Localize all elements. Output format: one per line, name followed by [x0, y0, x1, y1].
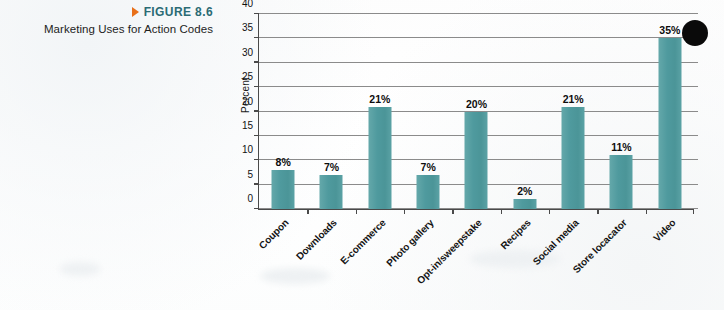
- x-tick-mark: [597, 209, 598, 214]
- bar-value-label: 8%: [276, 156, 291, 168]
- triangle-right-icon: [132, 7, 139, 17]
- x-tick-mark: [501, 209, 502, 214]
- bar-group[interactable]: 21%Social media: [549, 14, 597, 209]
- bar-group[interactable]: 7%Photo gallery: [404, 14, 452, 209]
- bar-group[interactable]: 8%Coupon: [259, 14, 307, 209]
- bar[interactable]: [320, 175, 343, 209]
- bar-value-label: 35%: [659, 24, 680, 36]
- figure-caption: FIGURE 8.6 Marketing Uses for Action Cod…: [8, 4, 213, 35]
- y-tick-label: 15: [242, 119, 253, 130]
- bar[interactable]: [513, 199, 536, 209]
- x-tick-mark: [452, 209, 453, 214]
- x-axis-category-label: Social media: [531, 217, 581, 267]
- bar-group[interactable]: 2%Recipes: [501, 14, 549, 209]
- bar[interactable]: [658, 38, 681, 209]
- bar-value-label: 11%: [611, 141, 631, 153]
- bar-group[interactable]: 21%E-commerce: [356, 14, 404, 209]
- x-axis-category-label: Recipes: [498, 217, 532, 251]
- bar-value-label: 21%: [369, 93, 390, 105]
- bar-group[interactable]: 7%Downloads: [307, 14, 355, 209]
- x-tick-mark: [693, 209, 694, 214]
- y-tick-label: 40: [242, 0, 253, 9]
- x-axis-category-label: Downloads: [294, 217, 339, 262]
- figure-number: FIGURE 8.6: [144, 5, 213, 19]
- x-axis-category-label: Photo gallery: [384, 217, 436, 269]
- plot-area: 0510152025303540 8%Coupon7%Downloads21%E…: [258, 14, 694, 210]
- x-tick-mark: [404, 209, 405, 214]
- bar-value-label: 7%: [421, 161, 436, 173]
- y-tick-label: 5: [247, 168, 253, 179]
- bar[interactable]: [417, 175, 440, 209]
- y-tick-label: 0: [247, 193, 253, 204]
- y-tick-label: 10: [242, 144, 253, 155]
- x-tick-mark: [356, 209, 357, 214]
- bar[interactable]: [610, 155, 633, 209]
- scan-artifact-dot: [682, 20, 708, 46]
- figure-number-line: FIGURE 8.6: [8, 4, 213, 19]
- x-tick-mark: [549, 209, 550, 214]
- x-axis-category-label: Video: [651, 217, 678, 244]
- bar-value-label: 7%: [324, 161, 339, 173]
- bar[interactable]: [465, 112, 488, 210]
- x-axis-category-label: Coupon: [257, 217, 291, 251]
- bar-chart: Percent 0510152025303540 8%Coupon7%Downl…: [212, 8, 702, 304]
- y-tick-label: 30: [242, 46, 253, 57]
- scan-smudge: [60, 262, 100, 276]
- y-tick-label: 35: [242, 22, 253, 33]
- x-axis-category-label: E-commerce: [338, 217, 388, 267]
- y-tick-label: 25: [242, 71, 253, 82]
- plot-area-wrapper: 0510152025303540 8%Coupon7%Downloads21%E…: [258, 14, 694, 210]
- bar[interactable]: [272, 170, 295, 209]
- bar-value-label: 21%: [563, 93, 584, 105]
- bar-group[interactable]: 11%Store locacator: [597, 14, 645, 209]
- y-tick-label: 20: [242, 95, 253, 106]
- bar-value-label: 20%: [466, 98, 487, 110]
- figure-subtitle: Marketing Uses for Action Codes: [8, 23, 213, 35]
- bar-group[interactable]: 20%Opt-in/sweepstake: [452, 14, 500, 209]
- bar[interactable]: [562, 107, 585, 209]
- x-tick-mark: [307, 209, 308, 214]
- bar-value-label: 2%: [517, 185, 532, 197]
- x-tick-mark: [646, 209, 647, 214]
- bar[interactable]: [368, 107, 391, 209]
